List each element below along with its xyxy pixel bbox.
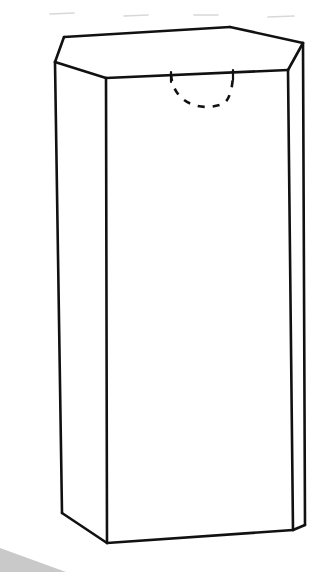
scan-artifact-4 (268, 16, 294, 17)
scan-artifact-1 (50, 13, 74, 14)
left-face (55, 62, 107, 543)
vertical-edge-front-center (106, 78, 107, 543)
prism-faces (55, 27, 305, 543)
drawing-canvas (0, 0, 324, 572)
scan-shadow-wedge (0, 548, 66, 572)
hexagonal-prism-figure (0, 0, 324, 572)
front-face (106, 70, 293, 543)
scan-artifact-2 (124, 15, 148, 16)
scan-artifact-group (50, 13, 294, 17)
